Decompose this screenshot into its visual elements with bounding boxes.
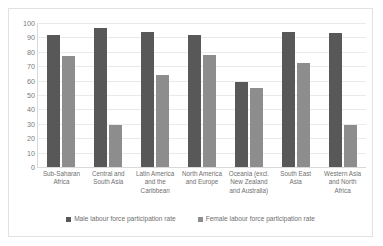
x-axis-tick-label-line: Oceania (excl. bbox=[226, 170, 271, 178]
chart-legend: Male labour force participation rateFema… bbox=[9, 215, 372, 223]
bar-female[interactable] bbox=[250, 88, 263, 167]
bar-male[interactable] bbox=[188, 35, 201, 167]
legend-swatch-icon bbox=[198, 217, 203, 222]
x-axis-tick-label-line: Sub-Saharan bbox=[39, 170, 84, 178]
y-axis-tick-label: 70 bbox=[13, 63, 35, 70]
x-axis-tick-label-line: Africa bbox=[320, 187, 365, 195]
x-axis-tick-label-line: Latin America bbox=[133, 170, 178, 178]
bar-female[interactable] bbox=[156, 75, 169, 167]
x-axis-tick-label-line: Caribbean bbox=[133, 187, 178, 195]
x-axis-tick-label-line: New Zealand bbox=[226, 178, 271, 186]
y-axis-tick-label: 50 bbox=[13, 92, 35, 99]
legend-label: Male labour force participation rate bbox=[74, 215, 176, 223]
bar-female[interactable] bbox=[62, 56, 75, 167]
x-axis-tick-label-line: South Asia bbox=[86, 178, 131, 186]
y-axis-tick-label: 20 bbox=[13, 135, 35, 142]
bar-male[interactable] bbox=[141, 32, 154, 167]
y-axis-tick-label: 90 bbox=[13, 34, 35, 41]
x-axis-tick-label-line: Africa bbox=[39, 178, 84, 186]
bar-group bbox=[272, 23, 319, 167]
bar-groups bbox=[38, 23, 366, 167]
bar-male[interactable] bbox=[94, 28, 107, 167]
x-axis-tick-label-line: and the bbox=[133, 178, 178, 186]
y-axis-tick-label: 30 bbox=[13, 120, 35, 127]
plot-wrapper: 1009080706050403020100 Sub-SaharanAfrica… bbox=[9, 9, 372, 236]
x-axis-tick-label-line: North America bbox=[180, 170, 225, 178]
bar-male[interactable] bbox=[235, 82, 248, 167]
bar-group bbox=[85, 23, 132, 167]
x-axis-tick-label-line: Central and bbox=[86, 170, 131, 178]
bar-group bbox=[38, 23, 85, 167]
bar-female[interactable] bbox=[109, 125, 122, 167]
legend-swatch-icon bbox=[66, 217, 71, 222]
y-axis-tick-label: 100 bbox=[13, 20, 35, 27]
x-axis-tick-label: Sub-SaharanAfrica bbox=[38, 170, 85, 212]
x-axis-tick-label: Western Asiaand NorthAfrica bbox=[319, 170, 366, 212]
legend-item-male[interactable]: Male labour force participation rate bbox=[66, 215, 176, 223]
y-axis-tick-label: 80 bbox=[13, 48, 35, 55]
x-axis-tick-label-line: and Europe bbox=[180, 178, 225, 186]
bar-female[interactable] bbox=[203, 55, 216, 167]
legend-label: Female labour force participation rate bbox=[206, 215, 315, 223]
x-axis-tick-label: Central andSouth Asia bbox=[85, 170, 132, 212]
plot-area bbox=[37, 23, 366, 168]
bar-group bbox=[132, 23, 179, 167]
x-axis-tick-label: Latin Americaand theCaribbean bbox=[132, 170, 179, 212]
x-axis-tick-label: North Americaand Europe bbox=[179, 170, 226, 212]
bar-male[interactable] bbox=[329, 33, 342, 167]
y-axis-tick-label: 10 bbox=[13, 149, 35, 156]
bar-male[interactable] bbox=[282, 32, 295, 167]
x-axis-tick-label: Oceania (excl.New Zealandand Australia) bbox=[225, 170, 272, 212]
legend-item-female[interactable]: Female labour force participation rate bbox=[198, 215, 315, 223]
bar-group bbox=[225, 23, 272, 167]
x-axis-tick-label-line: and North bbox=[320, 178, 365, 186]
bar-female[interactable] bbox=[344, 125, 357, 167]
chart-container: 1009080706050403020100 Sub-SaharanAfrica… bbox=[8, 8, 373, 237]
x-axis-tick-label-line: South East bbox=[273, 170, 318, 178]
bar-group bbox=[179, 23, 226, 167]
x-axis-tick-label-line: Western Asia bbox=[320, 170, 365, 178]
y-axis-tick-label: 40 bbox=[13, 106, 35, 113]
bar-male[interactable] bbox=[47, 35, 60, 167]
y-axis-tick-label: 0 bbox=[13, 164, 35, 171]
y-axis: 1009080706050403020100 bbox=[13, 23, 35, 167]
bar-group bbox=[319, 23, 366, 167]
x-axis-category-labels: Sub-SaharanAfricaCentral andSouth AsiaLa… bbox=[38, 170, 366, 212]
x-axis-tick-label: South EastAsia bbox=[272, 170, 319, 212]
y-axis-tick-label: 60 bbox=[13, 77, 35, 84]
x-axis-tick-label-line: and Australia) bbox=[226, 187, 271, 195]
bar-female[interactable] bbox=[297, 63, 310, 167]
x-axis-tick-label-line: Asia bbox=[273, 178, 318, 186]
